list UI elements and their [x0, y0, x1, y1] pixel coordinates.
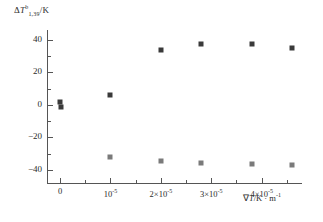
data-point-lower	[199, 161, 204, 166]
x-tick-label: 4×10-5	[250, 187, 273, 199]
y-tick-label: 20	[14, 67, 42, 76]
data-point-lower	[108, 154, 113, 159]
x-tick-label: 2×10-5	[150, 187, 173, 199]
x-tick-minor	[287, 180, 288, 183]
x-tick-label: 10-5	[104, 187, 118, 199]
x-tick-minor	[186, 180, 187, 183]
x-tick-minor	[236, 180, 237, 183]
y-tick-label: 0	[14, 100, 42, 109]
x-tick-minor	[85, 180, 86, 183]
data-point-lower	[158, 159, 163, 164]
data-point-upper	[108, 93, 113, 98]
y-axis-label-subscript: 1,39	[28, 11, 39, 17]
x-tick-major	[262, 178, 263, 183]
x-axis-label-exponent: -1	[276, 192, 281, 198]
data-point-upper	[289, 45, 294, 50]
y-axis-label-unit: /K	[40, 5, 49, 15]
x-tick-label: 3×10-5	[200, 187, 223, 199]
y-tick-major	[48, 170, 53, 171]
data-point-lower	[249, 162, 254, 167]
data-point-upper	[59, 104, 64, 109]
y-tick-minor	[48, 121, 51, 122]
y-tick-minor	[48, 56, 51, 57]
x-tick-major	[60, 178, 61, 183]
x-tick-minor	[136, 180, 137, 183]
y-axis-line	[47, 30, 48, 183]
data-point-upper	[249, 41, 254, 46]
y-tick-minor	[48, 89, 51, 90]
scatter-chart: ΔTb1,39/K ∇T/K · m-1 40200−20−40 010-52×…	[0, 0, 323, 222]
x-tick-major	[211, 178, 212, 183]
y-tick-major	[48, 40, 53, 41]
x-tick-major	[161, 178, 162, 183]
x-tick-major	[110, 178, 111, 183]
y-tick-major	[48, 137, 53, 138]
data-point-upper	[199, 41, 204, 46]
data-point-lower	[289, 163, 294, 168]
y-tick-major	[48, 105, 53, 106]
y-tick-label: −40	[14, 165, 42, 174]
y-axis-label-superscript: b	[25, 4, 28, 10]
y-tick-major	[48, 72, 53, 73]
x-axis-line	[47, 183, 302, 184]
x-tick-label: 0	[58, 187, 62, 196]
y-tick-label: −20	[14, 132, 42, 141]
y-tick-minor	[48, 154, 51, 155]
data-point-upper	[158, 47, 163, 52]
y-axis-label: ΔTb1,39/K	[14, 4, 49, 17]
y-tick-label: 40	[14, 35, 42, 44]
